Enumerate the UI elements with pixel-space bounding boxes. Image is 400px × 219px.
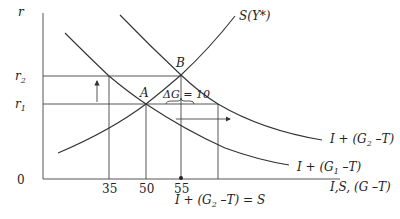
saving-curve [58, 16, 235, 153]
equilibrium-caption: I + (G2 –T) = S [174, 193, 265, 209]
y-axis-label: r [18, 5, 25, 19]
x55-axis-dot [179, 176, 183, 180]
origin-label: 0 [17, 173, 25, 187]
point-b-label: B [175, 56, 185, 70]
demand-g2-label: I + (G2 –T) [329, 132, 395, 148]
x-axis-label: I,S, (G –T) [329, 180, 391, 194]
demand-g1-label: I + (G1 –T) [296, 160, 362, 176]
delta-g-label: ΔG = 10 [162, 88, 210, 101]
r1-label: r1 [15, 97, 26, 113]
saving-curve-label: S(Y*) [239, 9, 271, 23]
point-a-label: A [139, 86, 149, 100]
x-tick-35: 35 [102, 182, 117, 196]
r2-label: r2 [15, 69, 26, 85]
diagram-canvas: r r2 r1 0 35 50 55 I,S, (G –T) A B ΔG = … [0, 0, 400, 219]
x-tick-50: 50 [139, 182, 154, 196]
